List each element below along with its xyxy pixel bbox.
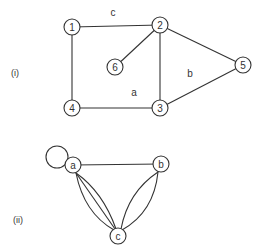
diagram-canvas: (i) c a b 1 2 3 4 bbox=[0, 0, 258, 252]
node-a-label: a bbox=[70, 160, 76, 171]
node-5: 5 bbox=[235, 57, 251, 73]
graph-i: (i) c a b 1 2 3 4 bbox=[11, 7, 251, 116]
node-b-label: b bbox=[158, 159, 164, 170]
graph-ii-edges bbox=[46, 146, 161, 230]
node-c: c bbox=[110, 228, 126, 244]
face-label-b: b bbox=[187, 68, 193, 79]
graph-ii-label: (ii) bbox=[13, 215, 23, 225]
graph-i-label: (i) bbox=[11, 68, 19, 78]
edge-a-c-2 bbox=[76, 173, 115, 229]
node-6-label: 6 bbox=[112, 62, 118, 73]
node-b: b bbox=[153, 156, 169, 172]
edge-a-b bbox=[73, 164, 161, 165]
node-3-label: 3 bbox=[157, 103, 163, 114]
face-label-a: a bbox=[131, 87, 137, 98]
edge-1-2 bbox=[72, 25, 160, 27]
edge-2-5 bbox=[160, 25, 243, 65]
edge-2-6 bbox=[115, 25, 160, 67]
node-2: 2 bbox=[152, 17, 168, 33]
node-4-label: 4 bbox=[69, 103, 75, 114]
edge-b-c-1 bbox=[121, 172, 158, 229]
node-c-label: c bbox=[116, 231, 121, 242]
node-5-label: 5 bbox=[240, 60, 246, 71]
node-2-label: 2 bbox=[157, 20, 163, 31]
node-6: 6 bbox=[107, 59, 123, 75]
node-a: a bbox=[65, 157, 81, 173]
node-1: 1 bbox=[64, 19, 80, 35]
node-3: 3 bbox=[152, 100, 168, 116]
face-label-c: c bbox=[111, 7, 116, 18]
graph-i-edges bbox=[72, 25, 243, 108]
edge-3-5 bbox=[160, 65, 243, 108]
edge-b-c-2 bbox=[122, 172, 158, 230]
node-4: 4 bbox=[64, 100, 80, 116]
graph-ii: (ii) a b c bbox=[13, 146, 169, 244]
node-1-label: 1 bbox=[69, 22, 75, 33]
